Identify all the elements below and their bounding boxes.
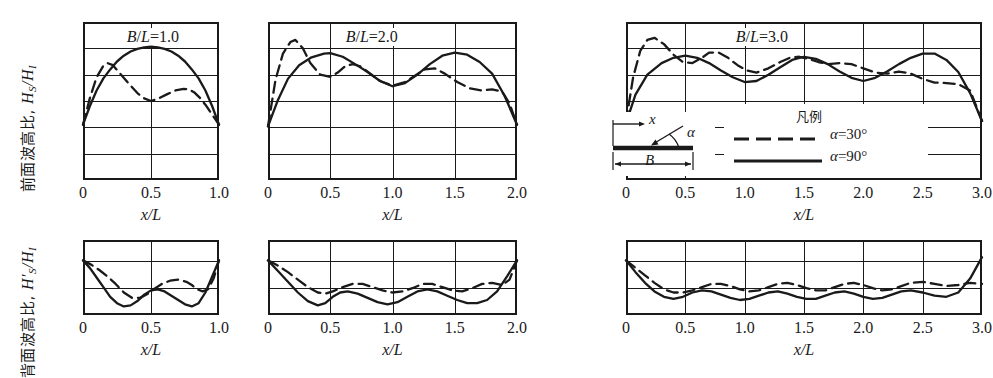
curve-layer bbox=[0, 0, 993, 378]
legend-label-alpha-30: α=30° bbox=[830, 126, 867, 143]
inset-x-label: x bbox=[649, 111, 656, 128]
curve-alpha-30 bbox=[626, 260, 982, 292]
inset-b-label: B bbox=[645, 152, 654, 169]
inset-svg bbox=[597, 112, 715, 176]
legend-swatch-alpha-90 bbox=[732, 154, 824, 168]
legend-title: 凡例 bbox=[796, 106, 822, 125]
figure-container: 前面波高比, HS/HI 背面波高比, H′S/HI 01.02.03.000.… bbox=[0, 0, 993, 378]
legend-swatch-alpha-30 bbox=[732, 132, 824, 146]
inset-alpha-label: α bbox=[687, 124, 695, 141]
legend: 凡例α=30°α=90° bbox=[724, 104, 928, 178]
breakwater-inset-diagram: xαB bbox=[597, 112, 715, 176]
curve-alpha-90 bbox=[626, 257, 982, 300]
legend-label-alpha-90: α=90° bbox=[830, 148, 867, 165]
